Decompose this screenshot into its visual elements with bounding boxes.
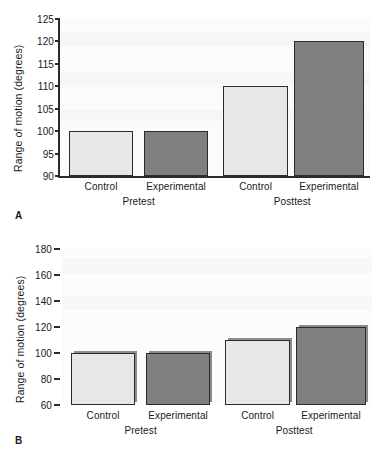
panel-letter-a: A bbox=[15, 210, 22, 221]
y-axis-tick-mark bbox=[54, 248, 60, 250]
y-axis-tick-mark bbox=[54, 326, 60, 328]
y-axis-tick-mark bbox=[54, 300, 60, 302]
x-axis-group-label: Pretest bbox=[122, 196, 154, 207]
x-axis-group-label: Pretest bbox=[124, 425, 156, 436]
x-axis-group-label: Posttest bbox=[274, 196, 311, 207]
y-axis-tick-mark bbox=[55, 175, 60, 177]
panel-letter-b: B bbox=[15, 435, 22, 446]
y-axis-label-a: Range of motion (degrees) bbox=[12, 45, 24, 172]
x-axis-tick-label: Experimental bbox=[146, 181, 206, 192]
y-axis-tick-mark bbox=[55, 18, 60, 20]
y-axis-tick-mark bbox=[55, 108, 60, 110]
y-axis-tick-mark bbox=[55, 130, 60, 132]
y-axis-tick-mark bbox=[55, 63, 60, 65]
bar-pretest-control bbox=[69, 131, 133, 176]
y-axis-tick-mark bbox=[54, 378, 60, 380]
figure-panel-a: Range of motion (degrees) 90951001051101… bbox=[0, 0, 386, 227]
y-axis-tick-mark bbox=[54, 404, 60, 406]
y-axis-label-b: Range of motion (degrees) bbox=[14, 276, 26, 403]
bar-pretest-experimental bbox=[144, 131, 208, 176]
x-axis-tick-label: Experimental bbox=[148, 410, 208, 421]
bar-pretest-experimental bbox=[146, 353, 210, 405]
plot-area-a: 9095100105110115120125ControlExperimenta… bbox=[58, 19, 370, 178]
x-axis-tick-label: Control bbox=[239, 181, 272, 192]
bar-pretest-control bbox=[71, 353, 135, 405]
y-axis-tick-mark bbox=[55, 40, 60, 42]
x-axis-tick-label: Control bbox=[85, 181, 118, 192]
y-axis-tick-mark bbox=[55, 153, 60, 155]
x-axis-tick-label: Control bbox=[241, 410, 274, 421]
bar-posttest-experimental bbox=[296, 327, 366, 405]
x-axis-tick-label: Experimental bbox=[299, 181, 359, 192]
y-axis-tick-mark bbox=[54, 274, 60, 276]
x-axis-tick-label: Control bbox=[87, 410, 120, 421]
bar-posttest-control bbox=[225, 340, 291, 405]
x-axis-group-label: Posttest bbox=[276, 425, 313, 436]
plot-area-b: 6080100120140160180ControlExperimentalCo… bbox=[62, 249, 372, 405]
bar-posttest-control bbox=[223, 86, 289, 176]
y-axis-tick-mark bbox=[55, 85, 60, 87]
bar-posttest-experimental bbox=[294, 41, 364, 176]
figure-panel-b: Range of motion (degrees) 60801001201401… bbox=[0, 227, 386, 454]
y-axis-tick-mark bbox=[54, 352, 60, 354]
x-axis-tick-label: Experimental bbox=[301, 410, 361, 421]
